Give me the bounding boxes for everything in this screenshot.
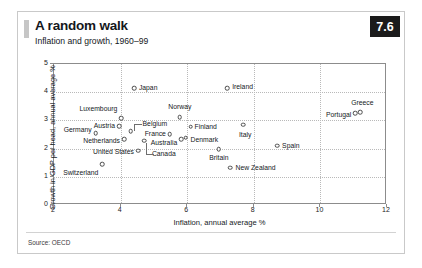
data-point-label: Belgium bbox=[143, 121, 168, 128]
data-point-label: Norway bbox=[168, 104, 191, 111]
leader-line-canada bbox=[146, 143, 154, 155]
x-tick-label: 2 bbox=[51, 206, 55, 213]
data-point-label: Italy bbox=[239, 131, 251, 138]
data-point-marker[interactable] bbox=[358, 110, 363, 115]
x-tick-label: 12 bbox=[382, 206, 390, 213]
figure-panel: A random walk Inflation and growth, 1960… bbox=[17, 11, 405, 254]
gridline-vertical bbox=[187, 64, 188, 203]
data-point-label: Netherlands bbox=[83, 138, 120, 145]
leader-line-belgium bbox=[134, 124, 142, 131]
data-point-label: Japan bbox=[139, 85, 158, 92]
x-tick-label: 4 bbox=[118, 206, 122, 213]
y-tick-mark bbox=[50, 91, 53, 92]
x-axis-title: Inflation, annual average % bbox=[53, 218, 386, 227]
data-point-label: Ireland bbox=[232, 84, 253, 91]
source-note: Source: OECD bbox=[28, 239, 70, 246]
x-tick-label: 6 bbox=[184, 206, 188, 213]
data-point-label: United States bbox=[93, 148, 134, 155]
data-point-marker[interactable] bbox=[275, 143, 280, 148]
y-tick-mark bbox=[50, 119, 53, 120]
data-point-marker[interactable] bbox=[119, 116, 124, 121]
y-tick-mark bbox=[50, 148, 53, 149]
data-point-marker[interactable] bbox=[132, 86, 137, 91]
data-point-label: Denmark bbox=[191, 136, 219, 143]
gridline-horizontal bbox=[54, 92, 385, 93]
footer-divider bbox=[26, 232, 396, 233]
gridline-vertical bbox=[254, 64, 255, 203]
data-point-label: Portugal bbox=[326, 112, 351, 119]
data-point-marker[interactable] bbox=[188, 124, 193, 129]
x-tick-label: 10 bbox=[315, 206, 323, 213]
y-tick-mark bbox=[50, 176, 53, 177]
data-point-label: Canada bbox=[152, 150, 176, 157]
data-point-label: Finland bbox=[195, 123, 217, 130]
plot-area: SwitzerlandGermanyAustriaLuxembourgNethe… bbox=[53, 63, 386, 204]
data-point-marker[interactable] bbox=[128, 129, 133, 134]
data-point-label: Greece bbox=[351, 100, 373, 107]
data-point-label: Luxembourg bbox=[79, 106, 117, 113]
data-point-label: Australia bbox=[151, 140, 177, 147]
y-tick-mark bbox=[50, 63, 53, 64]
data-point-marker[interactable] bbox=[353, 111, 358, 116]
data-point-marker[interactable] bbox=[117, 124, 122, 129]
x-tick-label: 8 bbox=[251, 206, 255, 213]
data-point-label: Spain bbox=[282, 142, 299, 149]
data-point-label: New Zealand bbox=[235, 164, 275, 171]
data-point-marker[interactable] bbox=[178, 115, 183, 120]
data-point-marker[interactable] bbox=[122, 137, 127, 142]
y-tick-mark bbox=[50, 204, 53, 205]
data-point-label: Austria bbox=[94, 123, 115, 130]
data-point-marker[interactable] bbox=[228, 165, 233, 170]
data-point-marker[interactable] bbox=[93, 131, 98, 136]
data-point-marker[interactable] bbox=[168, 132, 173, 137]
data-point-marker[interactable] bbox=[100, 162, 105, 167]
data-point-label: Switzerland bbox=[63, 170, 98, 177]
scatter-plot: SwitzerlandGermanyAustriaLuxembourgNethe… bbox=[18, 12, 406, 255]
data-point-marker[interactable] bbox=[225, 86, 230, 91]
gridline-horizontal bbox=[54, 177, 385, 178]
y-axis-title: Growth in GDP per head, annual average % bbox=[48, 58, 57, 218]
gridline-vertical bbox=[320, 64, 321, 203]
gridline-vertical bbox=[121, 64, 122, 203]
data-point-marker[interactable] bbox=[136, 148, 141, 153]
data-point-marker[interactable] bbox=[183, 136, 188, 141]
data-point-label: Germany bbox=[64, 127, 92, 134]
data-point-marker[interactable] bbox=[217, 147, 222, 152]
data-point-marker[interactable] bbox=[241, 122, 246, 127]
data-point-label: Britain bbox=[209, 155, 228, 162]
data-point-label: France bbox=[145, 131, 166, 138]
